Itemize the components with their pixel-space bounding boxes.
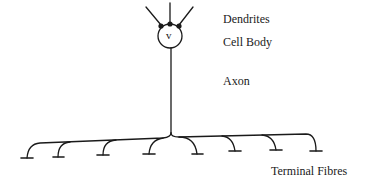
synapse-knob-left [158,23,163,28]
label-terminal-fibres: Terminal Fibres [271,165,347,177]
synapse-knob-middle [167,21,172,26]
terminal-fibre-6 [222,136,235,151]
label-cell-body: Cell Body [223,36,272,48]
neuron-diagram [0,0,369,186]
terminal-fibre-7 [262,135,276,150]
dendrite-right [179,7,193,25]
label-dendrites: Dendrites [223,13,270,25]
terminal-fibre-5 [179,137,197,154]
dendrite-left [146,7,161,25]
terminal-fibre-3 [103,140,116,155]
label-axon: Axon [223,75,250,87]
cell-body-symbol: v [166,30,172,41]
synapse-knob-right [176,23,181,28]
terminal-fibre-4 [149,138,163,154]
terminal-fibre-2 [58,142,70,157]
